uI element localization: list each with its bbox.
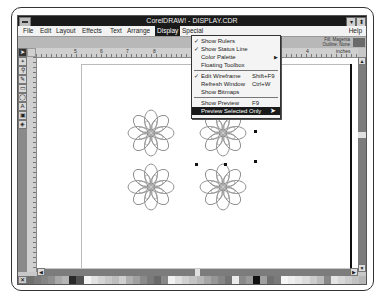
x-icon: ✕: [20, 277, 25, 283]
maximize-icon: ⬍: [359, 19, 364, 25]
palette-swatch[interactable]: [295, 276, 302, 284]
palette-swatch[interactable]: [98, 276, 105, 284]
palette-swatch[interactable]: [274, 276, 281, 284]
menu-edit[interactable]: Edit: [38, 26, 53, 36]
palette-swatch[interactable]: [359, 276, 366, 284]
status-fill-outline: Fill: Magenta Outline: None: [322, 37, 350, 47]
menu-item-label: Floating Toolbox: [201, 61, 245, 69]
menu-file[interactable]: File: [21, 26, 35, 36]
palette-swatch[interactable]: [105, 276, 112, 284]
menu-arrange[interactable]: Arrange: [125, 26, 152, 36]
palette-swatch[interactable]: [147, 276, 154, 284]
menu-item-show-preview[interactable]: Show PreviewF9: [192, 99, 280, 107]
zoom-icon: ⚲: [21, 67, 25, 73]
palette-swatch[interactable]: [140, 276, 147, 284]
palette-swatch[interactable]: [27, 276, 34, 284]
palette-swatch[interactable]: [41, 276, 48, 284]
pencil-tool[interactable]: ✎: [18, 75, 27, 84]
horizontal-scroll-thumb[interactable]: [195, 269, 200, 276]
palette-swatch[interactable]: [69, 276, 76, 284]
palette-swatch[interactable]: [168, 276, 175, 284]
menu-layout[interactable]: Layout: [54, 26, 78, 36]
vertical-scrollbar[interactable]: ▲ ▼: [358, 57, 366, 272]
ruler-label: 8: [153, 48, 156, 54]
rectangle-tool[interactable]: ▭: [18, 84, 27, 93]
fill-tool[interactable]: ◈: [18, 120, 27, 129]
palette-swatch[interactable]: [246, 276, 253, 284]
palette-swatch[interactable]: [331, 276, 338, 284]
palette-swatch[interactable]: [126, 276, 133, 284]
scroll-left-button[interactable]: ◀: [37, 268, 45, 276]
palette-swatch[interactable]: [189, 276, 196, 284]
menu-display[interactable]: Display: [155, 26, 180, 36]
palette-swatch[interactable]: [204, 276, 211, 284]
palette-swatch[interactable]: [324, 276, 331, 284]
shape-tool[interactable]: ⌖: [18, 57, 27, 66]
menu-item-refresh-window[interactable]: Refresh WindowCtrl+W: [192, 80, 280, 88]
menu-item-color-palette[interactable]: Color Palette▶: [192, 53, 280, 61]
palette-swatch[interactable]: [352, 276, 359, 284]
menu-item-floating-toolbox[interactable]: Floating Toolbox: [192, 61, 280, 69]
menu-effects[interactable]: Effects: [80, 26, 104, 36]
palette-swatch[interactable]: [267, 276, 274, 284]
menu-item-show-status-line[interactable]: ✓Show Status Line: [192, 45, 280, 53]
palette-swatch[interactable]: [154, 276, 161, 284]
palette-swatch[interactable]: [119, 276, 126, 284]
palette-swatch[interactable]: [260, 276, 267, 284]
ruler-origin[interactable]: [27, 48, 36, 57]
palette-swatch[interactable]: [34, 276, 41, 284]
palette-swatch[interactable]: [55, 276, 62, 284]
palette-swatch[interactable]: [62, 276, 69, 284]
palette-swatch[interactable]: [310, 276, 317, 284]
palette-swatch[interactable]: [232, 276, 239, 284]
horizontal-scrollbar[interactable]: ◀ ▶: [45, 269, 358, 276]
minimize-icon: ▾: [350, 19, 353, 25]
ellipse-tool[interactable]: ◯: [18, 93, 27, 102]
palette-swatch[interactable]: [133, 276, 140, 284]
zoom-tool[interactable]: ⚲: [18, 66, 27, 75]
menu-text[interactable]: Text: [108, 26, 124, 36]
palette-swatch[interactable]: [302, 276, 309, 284]
palette-swatch[interactable]: [91, 276, 98, 284]
palette-swatch[interactable]: [345, 276, 352, 284]
palette-swatch[interactable]: [182, 276, 189, 284]
menu-item-label: Edit Wireframe: [201, 72, 241, 80]
palette-swatch[interactable]: [317, 276, 324, 284]
shortcut-label: Shift+F9: [252, 72, 275, 80]
palette-swatch[interactable]: [48, 276, 55, 284]
menu-item-label: Show Preview: [201, 99, 239, 107]
palette-swatch[interactable]: [253, 276, 260, 284]
palette-swatch[interactable]: [218, 276, 225, 284]
palette-swatch[interactable]: [76, 276, 83, 284]
menu-item-show-rulers[interactable]: ✓Show Rulers: [192, 37, 280, 45]
palette-swatch[interactable]: [338, 276, 345, 284]
menu-item-edit-wireframe[interactable]: ✓Edit WireframeShift+F9: [192, 72, 280, 80]
text-icon: A: [20, 103, 24, 109]
palette-swatch[interactable]: [239, 276, 246, 284]
outline-tool[interactable]: ▣: [18, 111, 27, 120]
scroll-down-button[interactable]: ▼: [358, 264, 366, 272]
menu-item-show-bitmaps[interactable]: Show Bitmaps: [192, 88, 280, 96]
pick-tool[interactable]: ➤: [18, 48, 27, 57]
mouse-cursor-icon: ➤: [270, 107, 276, 115]
fill-icon: ◈: [20, 121, 25, 127]
palette-swatch[interactable]: [225, 276, 232, 284]
palette-swatch[interactable]: [211, 276, 218, 284]
palette-swatch[interactable]: [161, 276, 168, 284]
outline-icon: ▣: [20, 112, 26, 118]
ruler-label: inches: [336, 48, 350, 54]
palette-swatch[interactable]: [197, 276, 204, 284]
palette-swatch[interactable]: [288, 276, 295, 284]
scroll-up-button[interactable]: ▲: [358, 57, 366, 65]
palette-swatch[interactable]: [112, 276, 119, 284]
vertical-scroll-thumb[interactable]: [358, 132, 366, 138]
menu-item-preview-selected-only[interactable]: Preview Selected Only➤: [192, 107, 280, 115]
palette-swatch[interactable]: [281, 276, 288, 284]
palette-swatch[interactable]: [84, 276, 91, 284]
menu-help[interactable]: Help: [347, 26, 364, 36]
scroll-right-button[interactable]: ▶: [350, 268, 358, 276]
menu-item-label: Show Status Line: [201, 45, 248, 53]
no-color-button[interactable]: ✕: [18, 276, 27, 284]
palette-swatch[interactable]: [175, 276, 182, 284]
text-tool[interactable]: A: [18, 102, 27, 111]
